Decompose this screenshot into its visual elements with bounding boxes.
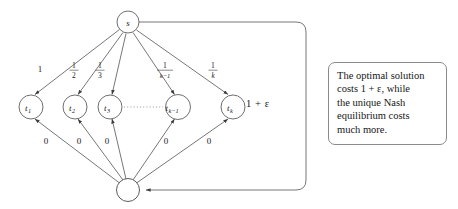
edge-s-t3 bbox=[112, 34, 126, 95]
node-label-s: s bbox=[126, 18, 130, 28]
edge-label-s-tk-1-num: 1 bbox=[163, 61, 167, 70]
edge-b-t3 bbox=[112, 119, 126, 179]
edge-label-b-tk-1: 0 bbox=[164, 136, 169, 146]
node-label-t3-sub: 3 bbox=[106, 107, 110, 114]
callout-line-5: much more. bbox=[337, 123, 439, 136]
callout-line-1: The optimal solution bbox=[337, 69, 439, 82]
node-sink bbox=[117, 179, 140, 202]
edge-label-s-t2-den: 2 bbox=[72, 71, 76, 80]
edge-label-b-tk: 0 bbox=[207, 136, 212, 146]
callout-line-2: costs 1 + ε, while bbox=[337, 82, 439, 95]
edge-label-s-t2: 1 2 bbox=[70, 61, 79, 80]
edge-group-source-to-targets bbox=[35, 30, 228, 95]
diagram-canvas: s t1 t2 t3 tk−1 tk 1 1 bbox=[0, 0, 458, 209]
edge-label-s-tk-1: 1 k−1 bbox=[157, 61, 173, 79]
node-tk bbox=[221, 95, 245, 119]
edge-label-s-tk: 1 k bbox=[209, 61, 218, 80]
edge-label-b-t1: 0 bbox=[44, 136, 49, 146]
edge-label-s-t3: 1 3 bbox=[96, 61, 105, 80]
edge-label-b-t2: 0 bbox=[77, 136, 82, 146]
edge-label-s-t2-num: 1 bbox=[72, 61, 76, 70]
callout-line-3: the unique Nash bbox=[337, 96, 439, 109]
edge-label-s-t3-den: 3 bbox=[98, 71, 102, 80]
edge-label-s-t3-num: 1 bbox=[98, 61, 102, 70]
callout-line-4: equilibrium costs bbox=[337, 109, 439, 122]
node-label-t1-sub: 1 bbox=[28, 107, 31, 114]
edge-label-s-tk-1-den: k−1 bbox=[160, 72, 170, 79]
node-label-tk-1-sub: k−1 bbox=[168, 107, 178, 114]
edge-label-b-t3: 0 bbox=[105, 136, 110, 146]
node-label-tk-sub: k bbox=[230, 107, 233, 114]
edge-label-s-tk-num: 1 bbox=[211, 61, 215, 70]
edge-label-s-t1: 1 bbox=[38, 64, 43, 74]
edge-s-t1 bbox=[35, 30, 120, 95]
annotation-callout: The optimal solution costs 1 + ε, while … bbox=[328, 62, 447, 145]
node-group bbox=[19, 11, 245, 202]
edge-label-s-tk-den: k bbox=[211, 72, 215, 80]
edge-group-sink-to-targets bbox=[35, 119, 228, 183]
edge-label-loop-cost: 1 + ε bbox=[246, 98, 270, 109]
edge-b-t1 bbox=[35, 119, 120, 183]
edge-b-tk bbox=[137, 119, 229, 183]
edge-b-t2 bbox=[78, 119, 123, 180]
